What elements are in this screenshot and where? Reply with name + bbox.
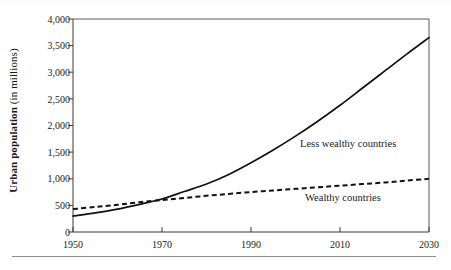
- axis-frame: [73, 19, 429, 232]
- series-line-wealthy-countries: [73, 179, 429, 209]
- chart-figure: Urban population (in millions) 4,000 3,5…: [0, 0, 451, 270]
- y-axis-ticks: [68, 19, 73, 232]
- plot-area: [0, 0, 451, 270]
- x-axis-ticks: [73, 227, 429, 232]
- footer-rule: [12, 256, 436, 257]
- series-line-less-wealthy-countries: [73, 38, 429, 216]
